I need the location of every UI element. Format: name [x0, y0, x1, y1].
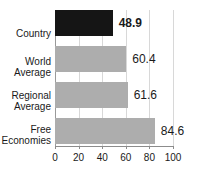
bar-value-free-economies: 84.6 [161, 125, 184, 137]
x-tick-mark-40 [102, 146, 103, 149]
bar-value-world-average: 60.4 [132, 53, 155, 65]
x-tick-label-100: 100 [165, 152, 182, 163]
bar-value-regional-average: 61.6 [134, 89, 157, 101]
x-tick-label-0: 0 [52, 152, 58, 163]
plot-area: 48.9 60.4 61.6 84.6 [55, 10, 173, 146]
x-tick-mark-60 [126, 146, 127, 149]
x-tick-label-20: 20 [73, 152, 84, 163]
bar-world-average[interactable] [55, 46, 126, 72]
x-axis-line [55, 146, 174, 147]
x-tick-mark-100 [173, 146, 174, 149]
bar-value-country: 48.9 [119, 17, 142, 29]
bar-country[interactable] [55, 10, 113, 36]
category-label-country: Country [0, 28, 51, 39]
category-label-free-economies: Free Economies [0, 124, 51, 146]
x-tick-label-40: 40 [97, 152, 108, 163]
x-tick-mark-0 [55, 146, 56, 149]
category-label-regional-average: Regional Average [0, 90, 51, 112]
x-tick-label-60: 60 [120, 152, 131, 163]
horizontal-bar-chart: Country World Average Regional Average F… [0, 0, 197, 178]
category-label-world-average: World Average [0, 56, 51, 78]
bar-regional-average[interactable] [55, 82, 128, 108]
x-tick-label-80: 80 [144, 152, 155, 163]
x-tick-mark-80 [149, 146, 150, 149]
x-tick-mark-20 [79, 146, 80, 149]
category-axis-labels: Country World Average Regional Average F… [0, 10, 51, 146]
bar-free-economies[interactable] [55, 118, 155, 144]
